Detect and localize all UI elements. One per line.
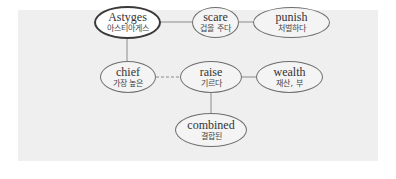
node-label-ko: 가장 높은 <box>113 79 144 89</box>
node-astyges: Astyges 아스티아게스 <box>94 6 161 39</box>
node-punish: punish 처벌하다 <box>253 7 330 38</box>
node-label-en: combined <box>187 119 234 131</box>
node-label-en: Astyges <box>108 11 147 23</box>
node-label-ko: 처벌하다 <box>278 24 306 34</box>
node-chief: chief 가장 높은 <box>100 61 156 93</box>
node-label-ko: 아스티아게스 <box>107 24 149 34</box>
node-raise: raise 기르다 <box>180 61 242 93</box>
node-label-en: scare <box>203 11 228 23</box>
node-label-ko: 겁을 주다 <box>200 24 231 34</box>
node-label-ko: 결합된 <box>201 132 222 142</box>
node-combined: combined 결합된 <box>175 113 247 147</box>
node-label-en: raise <box>200 66 223 78</box>
node-label-ko: 기르다 <box>201 79 222 89</box>
node-label-en: chief <box>116 66 140 78</box>
node-label-en: wealth <box>274 66 306 78</box>
node-label-ko: 재산, 부 <box>276 79 302 89</box>
node-scare: scare 겁을 주다 <box>192 7 239 38</box>
node-label-en: punish <box>275 11 307 23</box>
node-wealth: wealth 재산, 부 <box>256 61 323 93</box>
